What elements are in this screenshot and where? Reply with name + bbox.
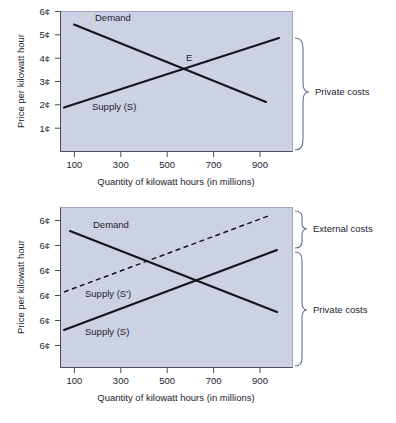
external-costs-brace [295,211,307,248]
y-axis-title: Price per kilowatt hour [15,34,26,128]
demand-curve-label: Demand [93,219,129,230]
x-tick-label-500: 500 [159,375,175,386]
private-costs-brace-label: Private costs [315,86,370,97]
y-tick-label-4: 6¢ [39,265,50,276]
external-costs-brace-label: External costs [313,223,373,234]
y-tick-label-2: 6¢ [39,315,50,326]
supply-demand-chart-private-costs: 6¢ 5¢ 4¢ 3¢ 2¢ 1¢ 100 300 500 700 900 Qu… [0,0,396,195]
y-tick-label-6: 6¢ [39,215,50,226]
x-tick-label-100: 100 [66,375,82,386]
x-tick-label-300: 300 [113,375,129,386]
supply-curve-label: Supply (S) [92,101,136,112]
x-tick-label-500: 500 [159,159,175,170]
y-tick-label-5: 5¢ [39,29,50,40]
y-tick-label-1: 6¢ [39,340,50,351]
private-costs-brace [295,38,309,150]
y-tick-label-3: 3¢ [39,76,50,87]
x-tick-label-700: 700 [206,375,222,386]
x-tick-label-300: 300 [113,159,129,170]
private-costs-brace-label: Private costs [313,304,368,315]
y-axis-title: Price per kilowatt hour [15,240,26,334]
y-tick-label-4: 4¢ [39,53,50,64]
private-costs-brace [295,252,307,366]
supply-curve-label: Supply (S) [85,326,129,337]
x-axis-title: Quantity of kilowatt hours (in millions) [97,392,254,403]
x-tick-label-700: 700 [206,159,222,170]
supply-demand-chart-external-costs: 6¢ 6¢ 6¢ 6¢ 6¢ 6¢ 100 300 500 700 900 Qu… [0,195,396,423]
demand-curve-label: Demand [95,12,131,23]
chart-bottom-canvas: 6¢ 6¢ 6¢ 6¢ 6¢ 6¢ 100 300 500 700 900 Qu… [0,195,396,423]
y-tick-label-2: 2¢ [39,99,50,110]
supply-external-curve-label: Supply (S') [85,288,131,299]
y-tick-label-6: 6¢ [39,6,50,17]
x-tick-label-900: 900 [252,375,268,386]
x-axis-title: Quantity of kilowatt hours (in millions) [97,176,254,187]
chart-top-canvas: 6¢ 5¢ 4¢ 3¢ 2¢ 1¢ 100 300 500 700 900 Qu… [0,0,396,195]
x-tick-label-900: 900 [252,159,268,170]
y-tick-label-5: 6¢ [39,240,50,251]
y-tick-label-1: 1¢ [39,123,50,134]
x-tick-label-100: 100 [66,159,82,170]
y-tick-label-3: 6¢ [39,290,50,301]
equilibrium-point-label: E [186,52,192,63]
